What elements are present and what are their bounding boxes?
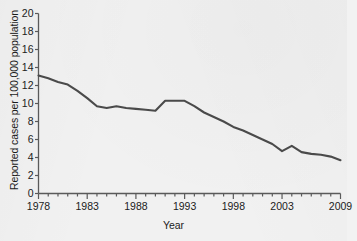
x-tick-label: 2009 bbox=[321, 201, 357, 212]
x-tick-label: 1978 bbox=[19, 201, 59, 212]
x-axis-title: Year bbox=[0, 219, 347, 231]
data-series-line bbox=[39, 76, 341, 161]
x-tick-label: 1998 bbox=[213, 201, 253, 212]
x-tick-label: 1988 bbox=[116, 201, 156, 212]
y-axis-title: Reported cases per 100,000 population bbox=[8, 7, 20, 193]
tick-marks-group bbox=[35, 14, 341, 200]
x-tick-label: 2003 bbox=[262, 201, 302, 212]
x-tick-label: 1993 bbox=[165, 201, 205, 212]
x-tick-label: 1983 bbox=[67, 201, 107, 212]
